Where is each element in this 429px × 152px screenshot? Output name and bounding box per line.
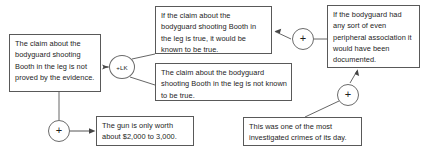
claim-box-not-proved[interactable]: The claim about the bodyguard shooting B… xyxy=(9,34,101,92)
claim-box-peripheral-association[interactable]: If the bodyguard had any sort of even pe… xyxy=(327,5,420,68)
inference-node-lk[interactable]: +LK xyxy=(109,55,135,79)
claim-box-investigated-crime[interactable]: This was one of the most investigated cr… xyxy=(243,117,362,146)
edge-plus-top-arrowhead xyxy=(275,29,282,34)
edge-not-known-to-lk xyxy=(130,77,155,85)
edge-plus-top-to-would-be xyxy=(275,32,291,40)
edge-plus-bottom-arrowhead xyxy=(89,128,96,133)
claim-box-not-known[interactable]: The claim about the bodyguard shooting B… xyxy=(155,63,292,101)
inference-node-plus-mid[interactable]: + xyxy=(337,84,359,106)
edge-plus-mid-to-peripheral xyxy=(350,71,357,83)
inference-node-plus-top[interactable]: + xyxy=(292,28,314,50)
edge-plus-mid-arrowhead xyxy=(355,69,360,76)
claim-box-would-be-known[interactable]: If the claim about the bodyguard shootin… xyxy=(155,6,272,54)
inference-node-plus-bottom[interactable]: + xyxy=(48,120,70,142)
edge-would-be-to-lk xyxy=(132,54,155,59)
argument-map-diagram: The claim about the bodyguard shooting B… xyxy=(0,0,429,152)
claim-box-gun-worth[interactable]: The gun is only worth about $2,000 to 3,… xyxy=(96,116,194,146)
edge-investigated-to-plus-mid xyxy=(305,101,339,117)
